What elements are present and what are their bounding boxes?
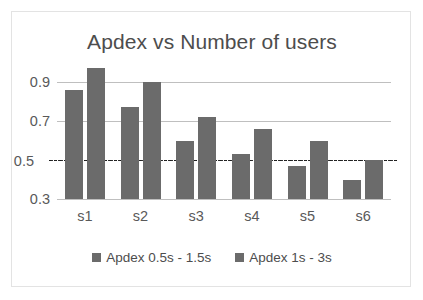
bar[interactable] <box>87 68 105 199</box>
chart-title: Apdex vs Number of users <box>12 30 412 54</box>
bar-group: s2 <box>113 82 169 199</box>
gridline-0.3: 0.3 <box>57 199 391 200</box>
bar[interactable] <box>288 166 306 199</box>
legend-item-1[interactable]: Apdex 1s - 3s <box>235 250 332 265</box>
bar[interactable] <box>198 117 216 199</box>
chart-container: Apdex vs Number of users 0.9 0.7 0.5 0.3… <box>11 11 411 287</box>
bar-group: s1 <box>57 82 113 199</box>
bar[interactable] <box>121 107 139 199</box>
legend-label: Apdex 0.5s - 1.5s <box>106 250 211 265</box>
bar[interactable] <box>343 180 361 200</box>
x-axis-tick-1: s2 <box>113 208 169 224</box>
x-axis-tick-0: s1 <box>57 208 113 224</box>
bar[interactable] <box>365 160 383 199</box>
bar-group: s4 <box>224 82 280 199</box>
x-axis-tick-5: s6 <box>335 208 391 224</box>
x-axis-tick-3: s4 <box>224 208 280 224</box>
legend-swatch-icon <box>92 253 101 262</box>
bar[interactable] <box>65 90 83 199</box>
bar-groups: s1s2s3s4s5s6 <box>57 82 391 199</box>
bar-group: s5 <box>280 82 336 199</box>
legend-item-0[interactable]: Apdex 0.5s - 1.5s <box>92 250 211 265</box>
plot-area: 0.9 0.7 0.5 0.3 s1s2s3s4s5s6 <box>57 82 391 199</box>
x-axis-tick-4: s5 <box>280 208 336 224</box>
bar[interactable] <box>143 82 161 199</box>
x-axis-tick-2: s3 <box>168 208 224 224</box>
y-axis-tick-3: 0.3 <box>30 191 50 207</box>
bar-group: s3 <box>168 82 224 199</box>
bar-group: s6 <box>335 82 391 199</box>
bar[interactable] <box>310 141 328 200</box>
legend-swatch-icon <box>235 253 244 262</box>
bar[interactable] <box>176 141 194 200</box>
bar[interactable] <box>232 154 250 199</box>
legend-label: Apdex 1s - 3s <box>249 250 332 265</box>
bar[interactable] <box>254 129 272 199</box>
y-axis-tick-1: 0.7 <box>30 113 50 129</box>
chart-legend: Apdex 0.5s - 1.5sApdex 1s - 3s <box>12 250 412 265</box>
y-axis-tick-2: 0.5 <box>14 153 34 169</box>
y-axis-tick-0: 0.9 <box>30 74 50 90</box>
